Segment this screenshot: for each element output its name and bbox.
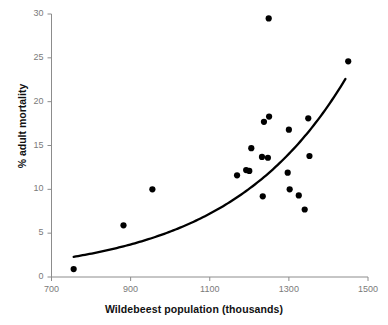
y-tick-label: 10	[14, 183, 44, 193]
axis-ticks	[48, 14, 369, 281]
x-tick-label: 900	[111, 284, 151, 294]
y-tick-label: 5	[14, 227, 44, 237]
y-tick-label: 0	[14, 271, 44, 281]
axis-lines	[52, 14, 369, 277]
y-tick-label: 20	[14, 96, 44, 106]
y-tick-label: 15	[14, 140, 44, 150]
x-axis-label: Wildebeest population (thousands)	[0, 303, 388, 315]
scatter-chart: % adult mortality Wildebeest population …	[0, 0, 388, 325]
x-tick-label: 1300	[269, 284, 309, 294]
x-tick-label: 1500	[348, 284, 388, 294]
x-tick-label: 700	[32, 284, 72, 294]
y-tick-label: 30	[14, 8, 44, 18]
y-tick-label: 25	[14, 52, 44, 62]
data-points	[71, 15, 352, 272]
y-axis-label: % adult mortality	[16, 46, 28, 206]
plot-area	[0, 0, 388, 325]
trend-line	[74, 79, 346, 257]
x-tick-label: 1100	[190, 284, 230, 294]
